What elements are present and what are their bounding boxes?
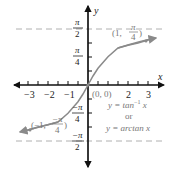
chart-svg: y x −3 −2 −1 2 3 (0, 0) π 2 π 4 −π 4 −π … <box>0 0 175 177</box>
svg-text:): ) <box>64 120 67 130</box>
x-tick-3: 3 <box>146 89 151 100</box>
equation-arctan: y = arctan x <box>105 123 150 133</box>
arctan-chart: y x −3 −2 −1 2 3 (0, 0) π 2 π 4 −π 4 −π … <box>0 0 175 177</box>
equation-or: or <box>125 111 133 121</box>
point-origin <box>86 83 89 86</box>
svg-text:4: 4 <box>55 125 60 135</box>
x-tick-m1: −1 <box>64 89 75 100</box>
svg-text:(−1,: (−1, <box>31 120 46 130</box>
y-label-pi-over-2: π 2 <box>73 17 83 39</box>
x-tick-m3: −3 <box>24 89 35 100</box>
y-axis-label: y <box>93 5 99 16</box>
equation-legend: y = tan−1 x or y = arctan x <box>105 99 150 133</box>
svg-text:(1,: (1, <box>112 28 122 38</box>
x-axis-label: x <box>157 71 163 82</box>
svg-text:−π: −π <box>52 114 63 124</box>
x-tick-m2: −2 <box>44 89 55 100</box>
svg-text:π: π <box>75 17 80 27</box>
svg-text:4: 4 <box>75 114 80 124</box>
origin-label: (0, 0) <box>92 89 112 99</box>
svg-text:π: π <box>131 22 136 32</box>
svg-text:2: 2 <box>75 142 80 152</box>
point-1-pi4 <box>145 40 148 43</box>
y-label-neg-pi-over-4: −π 4 <box>72 102 84 124</box>
annotation-1-pi4: (1, π 4 ) <box>112 22 142 42</box>
y-label-neg-pi-over-2: −π 2 <box>72 130 84 152</box>
x-tick-2: 2 <box>126 89 131 100</box>
svg-text:−π: −π <box>72 130 83 140</box>
svg-text:−π: −π <box>72 102 83 112</box>
svg-text:4: 4 <box>131 32 136 42</box>
y-label-pi-over-4: π 4 <box>73 45 83 67</box>
svg-text:y = tan−1 x: y = tan−1 x <box>107 99 147 110</box>
svg-text:2: 2 <box>75 29 80 39</box>
svg-text:4: 4 <box>75 57 80 67</box>
svg-text:π: π <box>75 45 80 55</box>
svg-text:): ) <box>139 28 142 38</box>
